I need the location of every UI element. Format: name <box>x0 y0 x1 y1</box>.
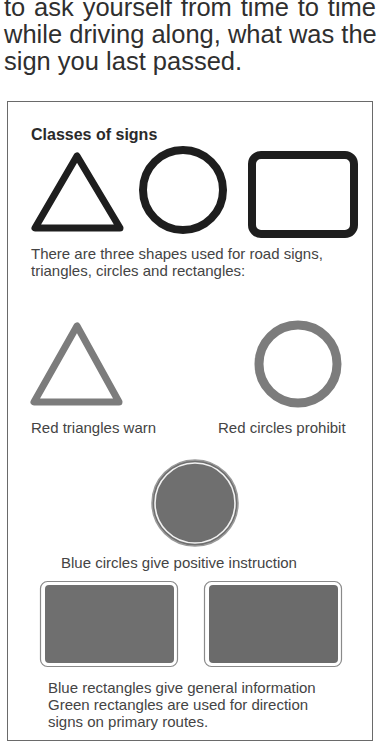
shapes-caption-line-2: triangles, circles and rectangles: <box>31 262 323 279</box>
red-circle-icon <box>259 325 337 403</box>
rectangles-caption-line-2: Green rectangles are used for direction <box>48 696 316 713</box>
rectangles-caption: Blue rectangles give general information… <box>48 679 316 730</box>
panel-heading: Classes of signs <box>31 126 157 144</box>
black-rectangle-icon <box>252 155 354 234</box>
black-triangle-icon <box>35 156 120 228</box>
red-triangle-icon <box>34 326 119 402</box>
shapes-caption-line-1: There are three shapes used for road sig… <box>31 245 323 262</box>
shapes-caption: There are three shapes used for road sig… <box>31 245 323 279</box>
blue-rectangle-fill <box>45 585 174 663</box>
red-circle-caption: Red circles prohibit <box>218 419 346 436</box>
rectangles-caption-line-1: Blue rectangles give general information <box>48 679 316 696</box>
rectangles-caption-line-3: signs on primary routes. <box>48 713 316 730</box>
blue-circle-icon <box>152 460 238 546</box>
black-circle-icon <box>143 150 223 230</box>
red-triangle-caption: Red triangles warn <box>31 419 156 436</box>
green-rectangle-fill <box>209 585 338 663</box>
blue-circle-caption: Blue circles give positive instruction <box>61 554 297 571</box>
